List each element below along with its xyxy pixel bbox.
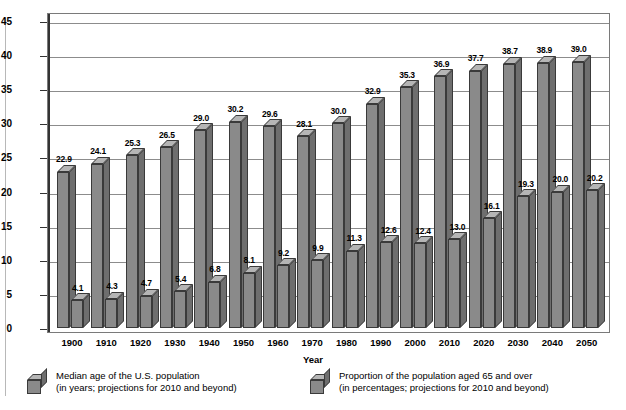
bar-side-face bbox=[495, 211, 502, 328]
y-axis-tick-mark bbox=[40, 124, 47, 125]
bar-value-label: 5.4 bbox=[175, 275, 186, 284]
bar-front-face bbox=[140, 296, 152, 328]
bar-front-face bbox=[229, 122, 241, 328]
x-axis-tick-label: 1990 bbox=[364, 338, 398, 348]
bar-proportion-65-1930 bbox=[174, 291, 186, 328]
x-axis-tick-label: 1930 bbox=[158, 338, 192, 348]
bar-proportion-65-1940 bbox=[208, 282, 220, 328]
bar-side-face bbox=[358, 244, 365, 328]
bar-value-label: 19.3 bbox=[518, 180, 534, 189]
y-axis-tick-mark bbox=[40, 158, 47, 159]
y-axis-tick-label: 20 bbox=[0, 188, 12, 198]
bar-front-face bbox=[469, 71, 481, 328]
bar-side-face bbox=[598, 183, 605, 328]
bar-front-face bbox=[243, 273, 255, 328]
y-axis-tick-mark bbox=[40, 329, 47, 330]
bar-value-label: 26.5 bbox=[159, 131, 175, 140]
bar-front-face bbox=[57, 172, 69, 328]
bar-proportion-65-1950 bbox=[243, 273, 255, 328]
legend-item-proportion-65-over: Proportion of the population aged 65 and… bbox=[310, 370, 549, 394]
y-axis-tick-label: 25 bbox=[0, 153, 12, 163]
bar-front-face bbox=[572, 62, 584, 328]
bar-front-face bbox=[448, 239, 460, 328]
y-axis-tick-mark bbox=[40, 227, 47, 228]
bar-side-face bbox=[152, 289, 159, 328]
bar-proportion-65-1980 bbox=[346, 251, 358, 328]
bar-proportion-65-1920 bbox=[140, 296, 152, 328]
bar-median-age-2030 bbox=[503, 64, 515, 328]
bar-value-label: 38.9 bbox=[536, 46, 552, 55]
y-axis-tick-mark bbox=[40, 90, 47, 91]
x-axis-tick-label: 1950 bbox=[227, 338, 261, 348]
x-axis-tick-label: 2050 bbox=[570, 338, 604, 348]
bar-proportion-65-2010 bbox=[448, 239, 460, 328]
bar-front-face bbox=[311, 260, 323, 328]
y-axis-tick-mark bbox=[40, 295, 47, 296]
y-axis-tick-label: 45 bbox=[0, 17, 12, 27]
bar-front-face bbox=[517, 196, 529, 328]
bar-front-face bbox=[277, 265, 289, 328]
bar-front-face bbox=[503, 64, 515, 328]
bar-side-face bbox=[289, 258, 296, 328]
x-axis-tick-label: 1980 bbox=[330, 338, 364, 348]
bar-value-label: 29.0 bbox=[193, 114, 209, 123]
chart-figure: 051015202530354045 22.94.124.14.325.34.7… bbox=[0, 0, 626, 410]
bar-median-age-1970 bbox=[297, 136, 309, 328]
bar-median-age-2050 bbox=[572, 62, 584, 328]
bar-value-label: 25.3 bbox=[125, 139, 141, 148]
bar-median-age-2040 bbox=[537, 63, 549, 328]
bar-value-label: 29.6 bbox=[262, 110, 278, 119]
bar-value-label: 30.0 bbox=[331, 107, 347, 116]
bar-median-age-1920 bbox=[126, 155, 138, 328]
y-axis-tick-label: 10 bbox=[0, 256, 12, 266]
bar-front-face bbox=[346, 251, 358, 328]
bar-side-face bbox=[529, 189, 536, 328]
bar-front-face bbox=[160, 147, 172, 328]
plot-area: 22.94.124.14.325.34.726.55.429.06.830.28… bbox=[47, 13, 610, 333]
bar-side-face bbox=[255, 266, 262, 328]
x-axis-tick-label: 2010 bbox=[432, 338, 466, 348]
bar-front-face bbox=[380, 242, 392, 328]
bar-front-face bbox=[400, 87, 412, 328]
bars-layer: 22.94.124.14.325.34.726.55.429.06.830.28… bbox=[48, 14, 609, 332]
y-axis-tick-mark bbox=[40, 261, 47, 262]
bar-median-age-2000 bbox=[400, 87, 412, 328]
x-axis-tick-label: 2020 bbox=[467, 338, 501, 348]
bar-side-face bbox=[117, 292, 124, 328]
bar-median-age-1990 bbox=[366, 104, 378, 328]
legend-label: Median age of the U.S. population (in ye… bbox=[56, 370, 237, 393]
bar-median-age-1960 bbox=[263, 126, 275, 328]
bar-value-label: 36.9 bbox=[433, 60, 449, 69]
bar-value-label: 4.1 bbox=[72, 284, 83, 293]
x-axis-tick-label: 2040 bbox=[535, 338, 569, 348]
bar-median-age-1940 bbox=[194, 130, 206, 328]
x-axis-tick-label: 1960 bbox=[261, 338, 295, 348]
bar-value-label: 38.7 bbox=[502, 47, 518, 56]
bar-proportion-65-2030 bbox=[517, 196, 529, 328]
bar-value-label: 28.1 bbox=[296, 120, 312, 129]
bar-side-face bbox=[426, 236, 433, 328]
bar-front-face bbox=[105, 299, 117, 328]
bar-front-face bbox=[366, 104, 378, 328]
y-axis-tick-label: 35 bbox=[0, 85, 12, 95]
x-axis-tick-label: 2000 bbox=[398, 338, 432, 348]
bar-front-face bbox=[297, 136, 309, 328]
bar-front-face bbox=[586, 190, 598, 328]
y-axis-tick-label: 5 bbox=[0, 290, 12, 300]
bar-proportion-65-1960 bbox=[277, 265, 289, 328]
bar-side-face bbox=[186, 284, 193, 328]
bar-median-age-1980 bbox=[332, 123, 344, 328]
bar-side-face bbox=[563, 185, 570, 328]
legend-label-line2: (in percentages; projections for 2010 an… bbox=[339, 382, 549, 394]
bar-front-face bbox=[91, 164, 103, 328]
bar-proportion-65-1990 bbox=[380, 242, 392, 328]
chart-legend: Median age of the U.S. population (in ye… bbox=[0, 370, 626, 410]
bar-median-age-1950 bbox=[229, 122, 241, 328]
bar-front-face bbox=[537, 63, 549, 328]
y-axis-tick-mark bbox=[40, 56, 47, 57]
y-axis-tick-mark bbox=[40, 193, 47, 194]
bar-value-label: 9.9 bbox=[312, 244, 323, 253]
bar-front-face bbox=[208, 282, 220, 328]
bar-value-label: 39.0 bbox=[571, 45, 587, 54]
bar-front-face bbox=[483, 218, 495, 328]
